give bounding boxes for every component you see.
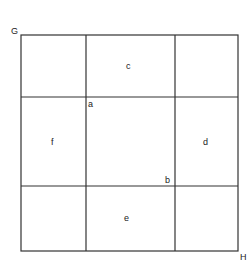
corner-label-g: G [11,26,18,36]
region-label-d: d [203,137,208,147]
corner-label-h: H [240,252,247,262]
region-label-f: f [51,137,54,147]
region-label-c: c [126,61,131,71]
region-label-e: e [124,213,129,223]
point-label-a: a [88,99,93,109]
grid-diagram: G H a b c d e f [0,0,250,269]
point-label-b: b [165,175,170,185]
